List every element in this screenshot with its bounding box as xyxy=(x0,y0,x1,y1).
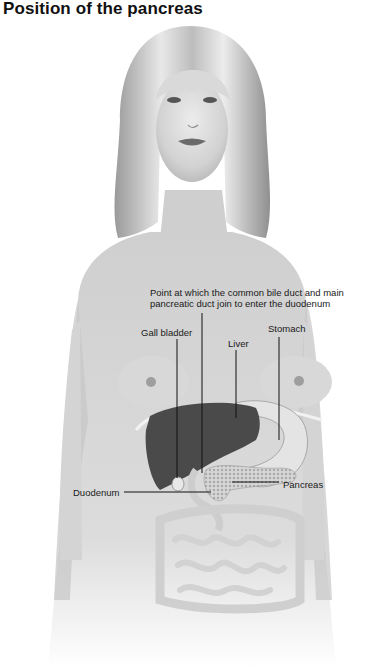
label-pancreas: Pancreas xyxy=(283,479,323,490)
label-duodenum: Duodenum xyxy=(73,487,119,498)
label-duct-junction-line1: Point at which the common bile duct and … xyxy=(150,287,344,298)
face xyxy=(156,78,228,182)
neck xyxy=(160,190,228,240)
label-duct-junction-line2: pancreatic duct join to enter the duoden… xyxy=(150,298,330,309)
label-gall-bladder: Gall bladder xyxy=(141,327,192,338)
eye-left xyxy=(167,97,181,103)
label-stomach: Stomach xyxy=(268,323,306,334)
gall-bladder xyxy=(172,477,184,491)
eye-right xyxy=(203,97,217,103)
label-liver: Liver xyxy=(228,338,249,349)
